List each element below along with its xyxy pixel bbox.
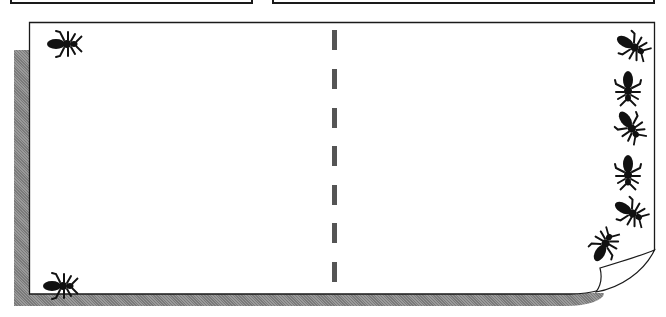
ant-icon [40,270,80,302]
divider-dash [332,69,337,89]
divider-dash [332,223,337,243]
divider-dash [332,108,337,128]
ant-icon [612,152,644,192]
divider-dash [332,146,337,166]
divider-dash [332,185,337,205]
divider-dash [332,30,337,50]
divider-dash [332,262,337,282]
ant-icon [44,28,84,60]
